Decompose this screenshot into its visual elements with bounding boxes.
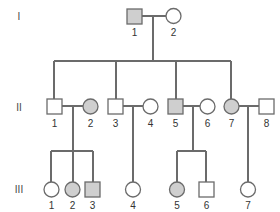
id-label-III-5: 5 [174,200,180,211]
individual-II-1-unaffected-male [47,99,62,114]
individual-III-3-affected-male [85,182,100,197]
individual-III-6-unaffected-male [199,182,214,197]
generation-label-II: II [16,102,22,113]
individual-III-1-unaffected-female [44,182,59,197]
generation-III: 1 2 3 4 5 6 7 [44,182,256,211]
individual-III-2-affected-female [65,182,80,197]
id-label-II-2: 2 [88,118,94,129]
id-label-III-1: 1 [49,200,55,211]
id-label-II-8: 8 [264,118,270,129]
id-label-II-1: 1 [52,118,58,129]
id-label-III-7: 7 [245,200,251,211]
individual-III-4-unaffected-female [126,182,141,197]
individual-II-5-affected-male [168,99,183,114]
id-label-II-4: 4 [148,118,154,129]
connector-lines [51,16,259,182]
individual-II-8-unaffected-male [259,99,274,114]
individual-II-4-unaffected-female [143,99,158,114]
individual-II-6-unaffected-female [200,99,215,114]
pedigree-chart: I II III 1 [0,0,280,212]
generation-label-III: III [15,184,23,195]
id-label-III-2: 2 [70,200,76,211]
generation-II: 1 2 3 4 5 6 7 8 [47,99,274,129]
individual-II-3-unaffected-male [108,99,123,114]
id-label-II-5: 5 [173,118,179,129]
id-label-III-4: 4 [130,200,136,211]
id-label-III-6: 6 [204,200,210,211]
id-label-II-3: 3 [113,118,119,129]
individual-II-2-affected-female [83,99,98,114]
generation-label-I: I [18,11,21,22]
individual-I-2-unaffected-female [166,9,181,24]
id-label-III-3: 3 [90,200,96,211]
id-label-I-2: 2 [171,27,177,38]
individual-I-1-affected-male [127,9,142,24]
id-label-I-1: 1 [132,27,138,38]
id-label-II-7: 7 [229,118,235,129]
id-label-II-6: 6 [205,118,211,129]
individual-III-5-affected-female [170,182,185,197]
individual-II-7-affected-female [224,99,239,114]
individual-III-7-unaffected-female [241,182,256,197]
